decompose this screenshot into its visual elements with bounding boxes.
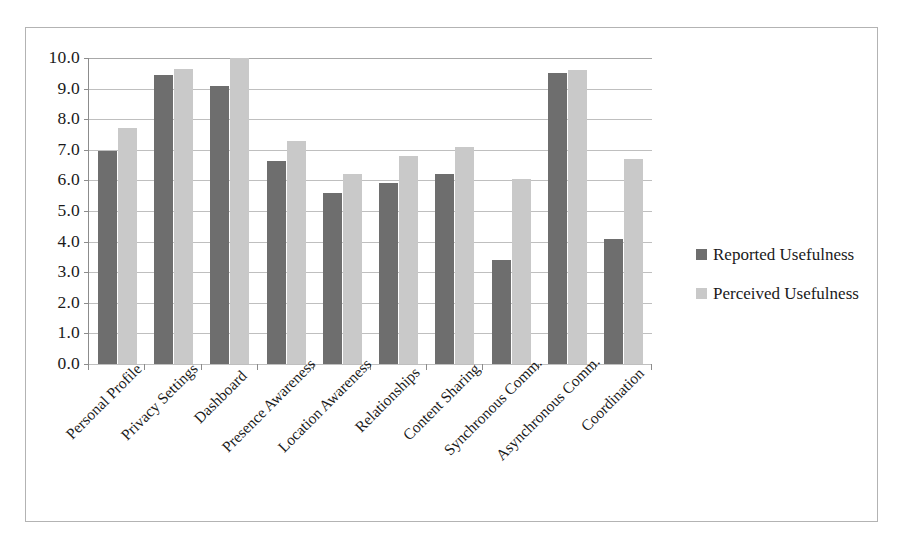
y-axis-tick-label: 10.0 bbox=[49, 49, 80, 67]
chart-plot-wrapper: 10.09.08.07.06.05.04.03.02.01.00.0 Perso… bbox=[26, 28, 879, 523]
x-axis-category-label-text: Synchronous Comm. bbox=[440, 354, 545, 459]
y-axis-tick-label: 8.0 bbox=[58, 110, 80, 128]
x-axis-category-label: Asynchronous Comm. bbox=[493, 353, 603, 463]
y-axis-tick-label: 6.0 bbox=[58, 172, 80, 190]
chart-legend: Reported UsefulnessPerceived Usefulness bbox=[696, 246, 876, 324]
x-axis-category-labels: Personal ProfilePrivacy SettingsDashboar… bbox=[88, 370, 652, 490]
legend-swatch-icon bbox=[696, 249, 707, 260]
bar bbox=[512, 179, 531, 364]
bar-group bbox=[596, 58, 652, 364]
bar bbox=[568, 70, 587, 364]
y-axis-tick-label: 2.0 bbox=[58, 294, 80, 312]
bar-group bbox=[427, 58, 483, 364]
y-axis-tick-label: 5.0 bbox=[58, 202, 80, 220]
bar bbox=[492, 260, 511, 364]
y-axis-tick-label: 3.0 bbox=[58, 263, 80, 281]
x-axis-category-label: Synchronous Comm. bbox=[441, 355, 545, 459]
bar-group bbox=[483, 58, 539, 364]
bar-group bbox=[314, 58, 370, 364]
bar bbox=[323, 193, 342, 364]
bar bbox=[399, 156, 418, 364]
bar bbox=[267, 161, 286, 364]
legend-swatch-icon bbox=[696, 288, 707, 299]
x-axis-category-label: Dashboard bbox=[191, 368, 249, 426]
x-axis-category-label-text: Dashboard bbox=[191, 367, 251, 427]
chart-plot-area bbox=[88, 58, 652, 365]
legend-item[interactable]: Reported Usefulness bbox=[696, 246, 876, 263]
bar bbox=[230, 58, 249, 364]
y-axis-tick-label: 9.0 bbox=[58, 80, 80, 98]
bar bbox=[435, 174, 454, 364]
bar bbox=[98, 151, 117, 364]
bar bbox=[154, 75, 173, 364]
chart-frame: 10.09.08.07.06.05.04.03.02.01.00.0 Perso… bbox=[25, 27, 878, 522]
bar bbox=[379, 183, 398, 364]
y-axis-tick-labels: 10.09.08.07.06.05.04.03.02.01.00.0 bbox=[26, 50, 84, 362]
bar bbox=[548, 73, 567, 364]
bar-group bbox=[370, 58, 426, 364]
bar-group bbox=[539, 58, 595, 364]
legend-item-label: Perceived Usefulness bbox=[713, 285, 859, 302]
bar bbox=[455, 147, 474, 364]
bar bbox=[118, 128, 137, 364]
y-axis-tick-label: 7.0 bbox=[58, 141, 80, 159]
y-axis-tick-label: 1.0 bbox=[58, 325, 80, 343]
legend-item-label: Reported Usefulness bbox=[713, 246, 854, 263]
bar bbox=[343, 174, 362, 364]
bar-group bbox=[145, 58, 201, 364]
y-axis-tick-label: 0.0 bbox=[58, 355, 80, 373]
bar bbox=[174, 69, 193, 364]
bar bbox=[210, 86, 229, 364]
bar-group bbox=[258, 58, 314, 364]
bar bbox=[604, 239, 623, 364]
bar-series-layer bbox=[89, 58, 652, 364]
bar bbox=[624, 159, 643, 364]
legend-item[interactable]: Perceived Usefulness bbox=[696, 285, 876, 302]
bar-group bbox=[89, 58, 145, 364]
y-axis-tick-label: 4.0 bbox=[58, 233, 80, 251]
bar bbox=[287, 141, 306, 364]
bar-group bbox=[202, 58, 258, 364]
